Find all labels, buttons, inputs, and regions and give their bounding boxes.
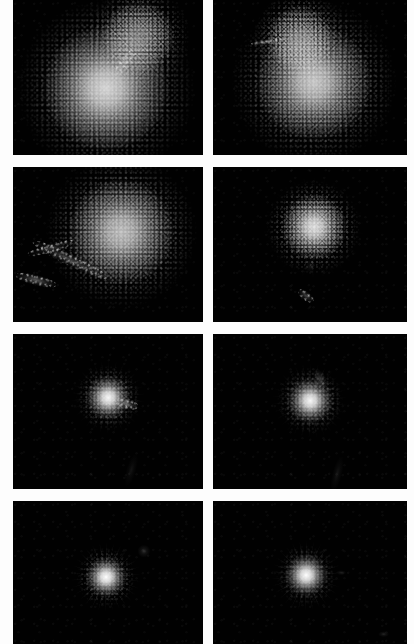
source-skirt-layer: [75, 365, 141, 431]
streak-west-wisp: [251, 36, 285, 47]
source-halo-layer: [68, 179, 174, 285]
source-halo-layer: [267, 6, 333, 72]
panel-noise-floor: [213, 501, 407, 644]
streak-tidal-tail: [30, 236, 111, 284]
source-primary-core: [85, 375, 131, 421]
source-skirt-layer: [76, 547, 136, 607]
streak-south-streak: [328, 454, 346, 489]
image-panel: [13, 0, 203, 155]
source-grain-layer: [85, 556, 127, 598]
source-primary-core: [285, 554, 328, 597]
source-spikes-layer: [241, 167, 386, 300]
source-halo-layer: [287, 377, 334, 424]
source-grain-layer: [43, 26, 168, 151]
panel-noise-floor: [213, 167, 407, 322]
source-skirt-layer: [253, 0, 348, 86]
source-grain-layer: [285, 554, 328, 597]
source-grain-layer: [85, 375, 131, 421]
panel-noise-floor: [13, 334, 203, 489]
source-spikes-layer: [58, 347, 158, 447]
image-panel: [13, 501, 203, 644]
source-grain-layer: [267, 6, 333, 72]
figure-panel-grid: [0, 0, 414, 644]
streak-southern-knot: [296, 286, 317, 305]
source-halo-layer: [43, 26, 168, 151]
source-skirt-layer: [266, 180, 361, 275]
image-panel: [13, 167, 203, 322]
streak-tail-knot: [14, 270, 57, 291]
streak-north-filament: [309, 367, 329, 392]
source-skirt-layer: [275, 545, 336, 606]
image-panel: [213, 501, 407, 644]
source-halo-layer: [85, 556, 127, 598]
source-grain-layer: [102, 1, 174, 73]
source-halo-layer: [281, 194, 347, 260]
source-primary-core: [85, 556, 127, 598]
source-grain-layer: [256, 24, 372, 140]
source-spikes-layer: [259, 528, 353, 622]
source-skirt-layer: [276, 367, 343, 434]
panel-noise-floor: [213, 0, 407, 155]
source-grain-layer: [287, 377, 334, 424]
source-halo-layer: [256, 24, 372, 140]
image-panel: [213, 0, 407, 155]
panel-noise-floor: [213, 334, 407, 489]
source-skirt-layer: [86, 0, 190, 89]
source-companion-lobe: [267, 6, 333, 72]
source-primary-lobe: [256, 24, 372, 140]
panel-noise-floor: [13, 0, 203, 155]
streak-east-speck: [336, 570, 346, 576]
source-grain-layer: [68, 179, 174, 285]
source-halo-layer: [102, 1, 174, 73]
image-panel: [13, 334, 203, 489]
panel-noise-floor: [13, 501, 203, 644]
streak-tail-extension: [26, 236, 76, 259]
image-panel: [213, 334, 407, 489]
source-skirt-layer: [16, 0, 197, 155]
source-primary-lobe: [43, 26, 168, 151]
source-grain-layer: [281, 194, 347, 260]
source-skirt-layer: [230, 0, 398, 155]
streak-connecting-wisp: [304, 259, 316, 274]
streak-bridge: [111, 47, 138, 78]
source-halo-layer: [85, 375, 131, 421]
source-primary-core: [287, 377, 334, 424]
streak-ne-wisp: [135, 542, 153, 560]
source-primary-lobe: [68, 179, 174, 285]
source-skirt-layer: [45, 167, 198, 309]
source-spikes-layer: [60, 531, 152, 623]
source-spikes-layer: [259, 349, 361, 451]
source-halo-layer: [285, 554, 328, 597]
streak-south-streak: [122, 453, 141, 488]
streak-corner-speck: [378, 631, 390, 637]
panel-noise-floor: [13, 167, 203, 322]
image-panel: [213, 167, 407, 322]
source-companion-lobe: [102, 1, 174, 73]
streak-east-plume: [115, 396, 140, 412]
source-primary-lobe: [281, 194, 347, 260]
